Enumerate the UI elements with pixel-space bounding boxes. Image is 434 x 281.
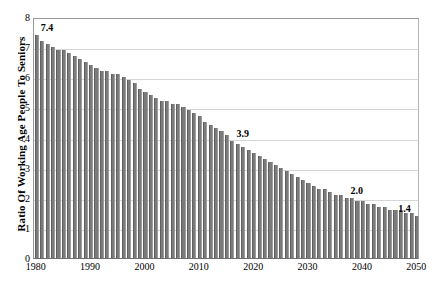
y-axis-tick-label: 5 [4, 103, 30, 113]
bar [165, 101, 169, 258]
y-axis-tick-label: 7 [4, 43, 30, 53]
bar [285, 171, 289, 258]
y-axis-tick-label: 4 [4, 134, 30, 144]
y-axis-tick-label: 8 [4, 13, 30, 23]
bar [247, 150, 251, 258]
bar [383, 207, 387, 258]
bar [198, 116, 202, 258]
bar [377, 207, 381, 258]
bars-layer [34, 19, 418, 258]
bar [361, 201, 365, 258]
bar [111, 74, 115, 258]
bar [62, 50, 66, 258]
bar [133, 83, 137, 258]
bar [410, 213, 414, 258]
bar [404, 213, 408, 258]
bar [290, 174, 294, 258]
bar [138, 89, 142, 258]
bar [78, 59, 82, 258]
data-point-label: 2.0 [351, 186, 364, 196]
bar [366, 204, 370, 258]
bar [176, 104, 180, 258]
bar [339, 195, 343, 258]
bar [127, 80, 131, 258]
bar [399, 210, 403, 258]
bar [67, 53, 71, 258]
x-axis-tick-label: 2000 [124, 261, 164, 272]
data-point-label: 7.4 [41, 23, 54, 33]
bar [268, 162, 272, 258]
bar [116, 74, 120, 258]
y-axis-tick-labels: 012345678 [0, 18, 30, 259]
bar [214, 128, 218, 258]
plot-area [33, 18, 419, 259]
x-axis-tick-label: 1990 [70, 261, 110, 272]
bar [279, 168, 283, 258]
x-axis-tick-label: 2010 [179, 261, 219, 272]
bar [230, 141, 234, 258]
bar [56, 50, 60, 258]
bar [306, 183, 310, 258]
bar [372, 204, 376, 258]
bar [35, 35, 39, 258]
bar [355, 201, 359, 258]
bar [415, 216, 419, 258]
bar [274, 165, 278, 258]
x-axis-tick-label: 2050 [396, 261, 434, 272]
bar [143, 92, 147, 258]
bar [350, 198, 354, 258]
y-axis-tick-label: 3 [4, 164, 30, 174]
bar [258, 156, 262, 258]
bar [149, 95, 153, 258]
bar [345, 198, 349, 258]
bar [154, 98, 158, 258]
bar [203, 122, 207, 258]
bar [236, 144, 240, 258]
bar [241, 147, 245, 258]
bar [73, 56, 77, 258]
y-axis-tick-label: 6 [4, 73, 30, 83]
bar [105, 71, 109, 258]
x-axis-tick-label: 2020 [233, 261, 273, 272]
bar [328, 192, 332, 258]
bar [192, 113, 196, 258]
bar [46, 44, 50, 258]
bar [317, 189, 321, 258]
bar [263, 159, 267, 258]
bar [94, 68, 98, 258]
data-point-label: 3.9 [236, 129, 249, 139]
y-axis-tick-label: 2 [4, 194, 30, 204]
bar [40, 41, 44, 258]
bar [122, 77, 126, 258]
x-axis-tick-label: 2030 [288, 261, 328, 272]
data-point-label: 1.4 [398, 204, 411, 214]
x-axis-tick-labels: 19801990200020102020203020402050 [33, 261, 419, 275]
bar [181, 107, 185, 258]
bar [296, 177, 300, 258]
bar [388, 210, 392, 258]
bar [209, 125, 213, 258]
bar [252, 153, 256, 258]
bar [160, 101, 164, 258]
bar [100, 71, 104, 258]
bar [301, 180, 305, 258]
bar [312, 186, 316, 258]
bar [334, 195, 338, 258]
bar [171, 104, 175, 258]
y-axis-tick-label: 1 [4, 224, 30, 234]
x-axis-tick-label: 1980 [16, 261, 56, 272]
bar [84, 62, 88, 258]
x-axis-tick-label: 2040 [342, 261, 382, 272]
bar [323, 189, 327, 258]
bar [89, 65, 93, 258]
bar-chart-figure: Ratio Of Working Age People To Seniors 0… [0, 0, 434, 281]
bar [393, 210, 397, 258]
bar [51, 47, 55, 258]
bar [187, 110, 191, 258]
bar [225, 135, 229, 259]
bar [219, 131, 223, 258]
